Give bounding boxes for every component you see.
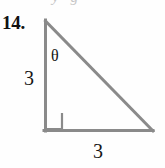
- vertical-leg-label: 3: [24, 68, 34, 88]
- figure-container: y g 14. θ 3 3: [0, 0, 165, 168]
- right-angle-marker-icon: [46, 113, 62, 129]
- horizontal-leg-label: 3: [93, 141, 103, 161]
- angle-theta-label: θ: [51, 48, 59, 64]
